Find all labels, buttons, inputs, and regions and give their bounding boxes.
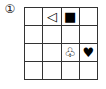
grid-cell (62, 62, 80, 80)
problem-number-label: ① (3, 2, 17, 16)
grid-cell (25, 26, 43, 44)
grid-cell (43, 44, 61, 62)
square-filled-icon: ■ (64, 10, 76, 23)
grid-cell: ♥ (80, 44, 98, 62)
grid-cell (25, 44, 43, 62)
grid-cell (43, 62, 61, 80)
grid-cell (25, 62, 43, 80)
heart-filled-icon: ♥ (83, 46, 95, 59)
triangle-left-outline-icon: ◁ (47, 10, 57, 23)
grid-cell (43, 26, 61, 44)
symbol-grid: ◁■♧♥ (24, 7, 98, 80)
grid-cell (80, 8, 98, 26)
clover-outline-icon: ♧ (64, 46, 76, 59)
grid-cell (80, 62, 98, 80)
grid-cell: ◁ (43, 8, 61, 26)
grid-cell (62, 26, 80, 44)
grid-cell: ■ (62, 8, 80, 26)
grid-cell (25, 8, 43, 26)
grid-cell (80, 26, 98, 44)
grid-cell: ♧ (62, 44, 80, 62)
